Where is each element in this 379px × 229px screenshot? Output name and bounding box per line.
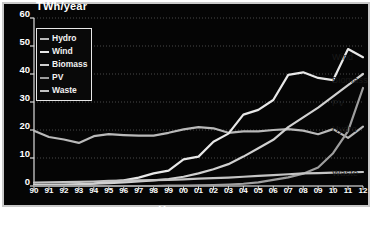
x-tick-label: 94	[89, 186, 98, 195]
series-end-label-pv: PV	[332, 98, 344, 108]
x-tick-label: 93	[74, 186, 83, 195]
series-end-label-hydro: Hydro	[332, 124, 357, 134]
legend-item-pv[interactable]: PV	[40, 71, 89, 84]
legend-item-biomass[interactable]: Biomass	[40, 58, 89, 71]
x-tick-label: 07	[284, 186, 293, 195]
legend-swatch-icon	[40, 51, 49, 53]
legend-item-waste[interactable]: Waste	[40, 84, 89, 97]
x-tick-label: 00	[179, 186, 188, 195]
x-axis-tick-labels: 9091929394959697989900010203040506070809…	[0, 186, 379, 202]
series-end-labels: WindBiomassPVHydroWaste	[330, 0, 379, 229]
y-axis-unit-label: TWh/year	[36, 0, 87, 12]
x-tick-label: 04	[239, 186, 248, 195]
legend-item-wind[interactable]: Wind	[40, 45, 89, 58]
legend-swatch-icon	[40, 77, 49, 79]
legend-swatch-icon	[40, 64, 49, 66]
chart-figure: TWh/year 6050403020100 90919293949596979…	[0, 0, 379, 229]
series-line-hydro	[34, 127, 363, 143]
x-tick-label: 90	[30, 186, 39, 195]
series-line-pv	[34, 88, 363, 186]
x-tick-label: 09	[314, 186, 323, 195]
y-tick-label: 40	[8, 64, 30, 75]
legend-item-label: Waste	[52, 86, 77, 95]
legend-swatch-icon	[40, 38, 49, 40]
x-tick-label: 96	[119, 186, 128, 195]
legend-item-label: Wind	[52, 47, 73, 56]
x-tick-label: 03	[224, 186, 233, 195]
x-tick-label: 91	[45, 186, 54, 195]
x-tick-label: 02	[209, 186, 218, 195]
series-end-label-waste: Waste	[332, 168, 358, 178]
y-tick-label: 10	[8, 148, 30, 159]
y-tick-label: 20	[8, 120, 30, 131]
legend-item-hydro[interactable]: Hydro	[40, 32, 89, 45]
x-axis-title: Year	[0, 204, 340, 216]
legend-item-label: Biomass	[52, 60, 87, 69]
series-end-label-biomass: Biomass	[332, 75, 368, 85]
x-tick-label: 98	[149, 186, 158, 195]
x-tick-label: 99	[164, 186, 173, 195]
y-tick-label: 60	[8, 8, 30, 19]
x-tick-label: 97	[134, 186, 143, 195]
y-tick-label: 30	[8, 92, 30, 103]
x-tick-label: 01	[194, 186, 203, 195]
series-end-label-wind: Wind	[332, 52, 353, 62]
y-axis-tick-labels: 6050403020100	[6, 0, 30, 201]
x-tick-label: 08	[299, 186, 308, 195]
x-tick-label: 92	[59, 186, 68, 195]
legend-item-label: Hydro	[52, 34, 77, 43]
x-tick-label: 05	[254, 186, 263, 195]
chart-legend: HydroWindBiomassPVWaste	[36, 28, 92, 101]
x-tick-label: 95	[104, 186, 113, 195]
legend-item-label: PV	[52, 73, 63, 82]
legend-swatch-icon	[40, 90, 49, 92]
y-tick-label: 50	[8, 36, 30, 47]
x-tick-label: 06	[269, 186, 278, 195]
